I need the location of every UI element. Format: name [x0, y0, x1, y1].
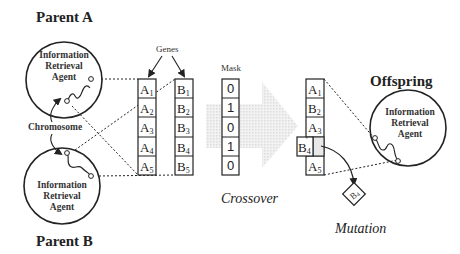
- offspring-agent-line-2: Retrieval: [391, 118, 429, 128]
- offspring-label: Offspring: [370, 73, 433, 89]
- mask-bit-2: 1: [227, 100, 234, 115]
- crossover-arrow-icon: [206, 82, 298, 168]
- offspring-chromosome-icon: [375, 138, 398, 160]
- parent-a-agent-line-3: Agent: [52, 72, 77, 82]
- chromosome-label: Chromosome: [28, 122, 82, 132]
- mutation-gene-diamond: B4: [343, 183, 366, 206]
- mask-bit-5: 0: [227, 158, 234, 173]
- parent-b-agent-line-1: Information: [37, 180, 87, 190]
- parent-a-agent-line-2: Retrieval: [45, 61, 83, 71]
- parent-a-chromosome-icon: [68, 86, 90, 100]
- offspring-agent-line-1: Information: [385, 107, 435, 117]
- parent-b-agent-line-2: Retrieval: [43, 191, 81, 201]
- offspring-agent-line-3: Agent: [398, 129, 423, 139]
- mask-bit-3: 0: [227, 120, 234, 135]
- offspring-gene-column: A1 B2 A3 B4 ' A5: [297, 79, 324, 175]
- mask-bit-4: 1: [227, 139, 234, 154]
- parent-a-agent-line-1: Information: [39, 50, 89, 60]
- parent-a-label: Parent A: [36, 9, 93, 25]
- mask-bit-1: 0: [227, 81, 234, 96]
- crossover-label: Crossover: [221, 191, 279, 206]
- offspring-agent-circle: [370, 90, 446, 166]
- mask-label: Mask: [221, 63, 241, 73]
- parent-b-agent-line-3: Agent: [50, 202, 75, 212]
- mask-column: 0 1 0 1 0: [222, 79, 239, 175]
- parent-b-label: Parent B: [36, 233, 93, 249]
- mutation-label: Mutation: [334, 221, 386, 236]
- genes-label: Genes: [156, 44, 179, 54]
- parent-a-gene-column: A1 A2 A3 A4 A5: [138, 79, 156, 175]
- genetic-algorithm-diagram: Parent A Information Retrieval Agent Inf…: [0, 0, 460, 254]
- parent-b-gene-column: B1 B2 B3 B4 B5: [175, 79, 193, 175]
